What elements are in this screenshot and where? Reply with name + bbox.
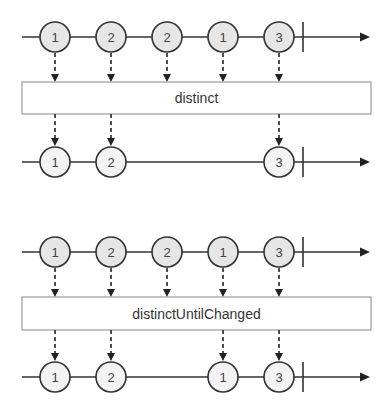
marble: 2 [152,237,182,267]
operator-box: distinctUntilChanged [22,297,371,330]
emission-arrow [219,330,227,361]
marble-label: 2 [163,245,170,260]
arrow-down-icon [51,74,59,82]
arrow-down-icon [107,353,115,361]
arrow-down-icon [51,289,59,297]
emission-arrow [107,114,115,146]
marble: 3 [264,147,294,177]
operator-label: distinctUntilChanged [132,306,260,322]
arrow-down-icon [51,138,59,146]
arrow-down-icon [163,289,171,297]
marble: 1 [208,22,238,52]
emission-arrow [163,53,171,82]
marble-label: 1 [51,30,58,45]
marble: 1 [40,237,70,267]
arrow-down-icon [219,74,227,82]
marble-diagram: 12213distinct12312213distinctUntilChange… [0,0,392,410]
operator-box: distinct [22,82,371,114]
arrow-down-icon [275,74,283,82]
emission-arrow [51,53,59,82]
input-timeline: 12213 [22,22,370,52]
marble: 3 [264,237,294,267]
emission-arrow [107,53,115,82]
marble: 2 [152,22,182,52]
marble-label: 2 [107,155,114,170]
marble: 2 [96,147,126,177]
time-arrow-icon [360,248,370,257]
marble-label: 2 [163,30,170,45]
marble-label: 1 [51,245,58,260]
arrow-down-icon [219,353,227,361]
marble-label: 1 [219,370,226,385]
diagram-distinct: 12213distinct123 [22,22,371,177]
marble-label: 3 [275,30,282,45]
emission-arrow [219,268,227,297]
marble-label: 3 [275,245,282,260]
arrow-down-icon [107,74,115,82]
operator-label: distinct [175,90,219,106]
marble: 3 [264,22,294,52]
arrow-down-icon [107,289,115,297]
arrow-down-icon [163,74,171,82]
marble: 2 [96,362,126,392]
marble: 3 [264,362,294,392]
marble-label: 1 [51,370,58,385]
time-arrow-icon [360,33,370,42]
marble: 2 [96,22,126,52]
emission-arrow [51,330,59,361]
input-timeline: 12213 [22,237,370,267]
marble-label: 3 [275,155,282,170]
marble-label: 2 [107,30,114,45]
emission-arrow [275,114,283,146]
time-arrow-icon [360,158,370,167]
emission-arrow [51,114,59,146]
arrow-down-icon [219,289,227,297]
output-timeline: 1213 [22,362,370,392]
marble: 1 [208,237,238,267]
emission-arrow [107,268,115,297]
arrow-down-icon [275,289,283,297]
marble: 1 [40,22,70,52]
diagram-distinctUntilChanged: 12213distinctUntilChanged1213 [22,237,371,392]
arrow-down-icon [107,138,115,146]
marble: 2 [96,237,126,267]
marble-label: 2 [107,370,114,385]
emission-arrow [275,268,283,297]
marble-label: 2 [107,245,114,260]
time-arrow-icon [360,373,370,382]
marble: 1 [40,362,70,392]
emission-arrow [163,268,171,297]
marble: 1 [40,147,70,177]
arrow-down-icon [51,353,59,361]
emission-arrow [275,330,283,361]
emission-arrow [51,268,59,297]
marble: 1 [208,362,238,392]
marble-label: 1 [219,30,226,45]
arrow-down-icon [275,138,283,146]
arrow-down-icon [275,353,283,361]
emission-arrow [219,53,227,82]
emission-arrow [275,53,283,82]
emission-arrow [107,330,115,361]
marble-label: 1 [219,245,226,260]
marble-label: 3 [275,370,282,385]
output-timeline: 123 [22,147,370,177]
marble-label: 1 [51,155,58,170]
